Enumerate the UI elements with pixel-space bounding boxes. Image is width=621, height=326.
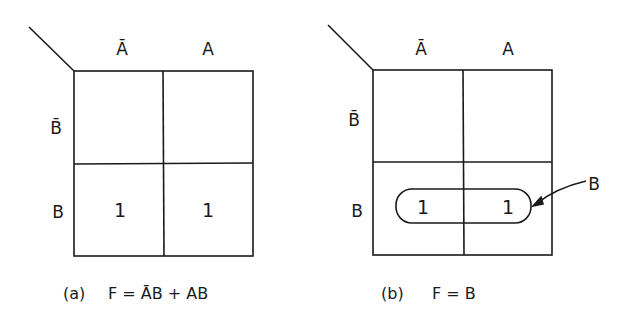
kmap-a-col-label-1: A — [202, 39, 214, 59]
kmap-b-row-label-1: B — [351, 201, 363, 221]
kmap-b-row-label-0: B̄ — [348, 109, 360, 130]
arrowhead-icon — [533, 197, 543, 206]
kmap-b-corner-diagonal — [328, 25, 373, 70]
kmap-b-cell-1-0: 1 — [417, 196, 429, 218]
kmap-a-caption-prefix: (a) — [63, 284, 85, 303]
kmap-a-row-label-0: B̄ — [50, 117, 62, 138]
kmap-b-caption-expression: F = B — [432, 284, 476, 303]
kmap-a-grid-horizontal — [74, 163, 253, 164]
kmap-b — [328, 25, 586, 255]
kmap-a-caption-expression: F = ĀB + AB — [108, 284, 208, 303]
kmap-b-labels: Ā A B̄ B 1 1 B (b) F = B — [348, 38, 600, 303]
kmap-a-corner-diagonal — [29, 27, 74, 71]
kmap-a-cell-1-0: 1 — [114, 199, 126, 221]
karnaugh-maps-figure: Ā A B̄ B 1 1 (a) F = ĀB + AB Ā A B̄ B 1 … — [0, 0, 621, 326]
kmap-b-col-label-0: Ā — [415, 38, 427, 59]
kmap-b-arrow-line — [536, 181, 586, 204]
kmap-b-caption-prefix: (b) — [381, 284, 404, 303]
kmap-a-cell-1-1: 1 — [202, 199, 214, 221]
kmap-a-col-label-0: Ā — [116, 38, 128, 59]
kmap-b-group-label: B — [588, 174, 600, 194]
kmap-b-cell-1-1: 1 — [502, 196, 514, 218]
kmap-a-row-label-1: B — [52, 202, 64, 222]
kmap-b-col-label-1: A — [502, 39, 514, 59]
